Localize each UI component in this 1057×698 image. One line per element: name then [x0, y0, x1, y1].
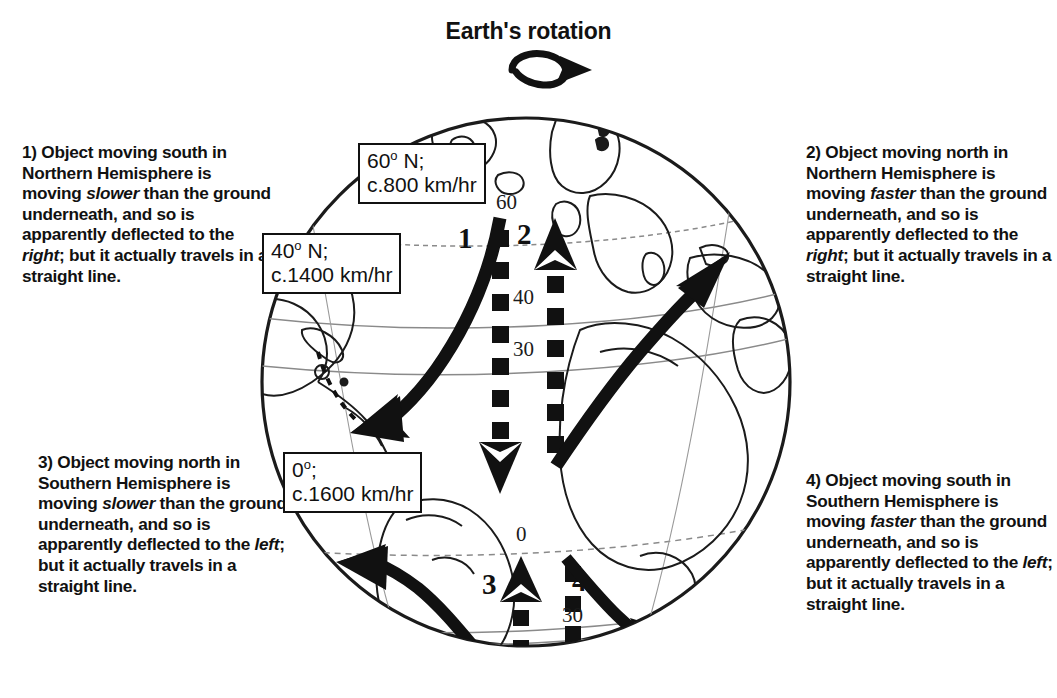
callout-0-latitude: 0: [292, 458, 304, 481]
latitude-label-30n: 30: [513, 337, 534, 362]
page-title: Earth's rotation: [0, 18, 1057, 45]
latitude-label-60n: 60: [496, 190, 517, 215]
note-northern-southbound: 1) Object moving south in Northern Hemis…: [22, 142, 272, 286]
note-4-speed-emphasis: faster: [870, 511, 915, 531]
callout-40-degree: o: [294, 238, 301, 253]
callout-latitude-0: 0o; c.1600 km/hr: [283, 452, 422, 513]
callout-40-latitude: 40: [271, 239, 294, 262]
callout-40-hemisphere: N;: [302, 239, 329, 262]
arrow-label-2: 2: [517, 218, 532, 251]
callout-40-latitude-line: 40o N;: [271, 239, 392, 263]
callout-0-latitude-line: 0o;: [292, 458, 413, 482]
callout-0-hemisphere: ;: [311, 458, 317, 481]
callout-60-degree: o: [390, 148, 397, 163]
note-4-direction-emphasis: left: [1022, 552, 1047, 572]
arrow-label-4: 4: [572, 565, 587, 598]
note-1-direction-emphasis: right: [22, 245, 59, 265]
note-1-tail: ; but it actually travels in a straight …: [22, 245, 267, 286]
callout-40-speed: c.1400 km/hr: [271, 263, 392, 287]
callout-60-hemisphere: N;: [398, 149, 425, 172]
note-southern-northbound: 3) Object moving north in Southern Hemis…: [38, 452, 288, 596]
callout-0-speed: c.1600 km/hr: [292, 482, 413, 506]
callout-60-latitude-line: 60o N;: [367, 149, 477, 173]
latitude-label-equator: 0: [516, 522, 527, 547]
callout-latitude-40: 40o N; c.1400 km/hr: [262, 233, 401, 294]
note-2-tail: ; but it actually travels in a straight …: [806, 245, 1051, 286]
arrow-label-3: 3: [482, 568, 497, 601]
coriolis-diagram-page: Earth's rotation 1) Object moving south …: [0, 0, 1057, 698]
arrow-label-1: 1: [458, 222, 473, 255]
callout-60-speed: c.800 km/hr: [367, 173, 477, 197]
callout-latitude-60: 60o N; c.800 km/hr: [358, 143, 486, 204]
note-northern-northbound: 2) Object moving north in Northern Hemis…: [806, 142, 1054, 286]
callout-0-degree: o: [304, 457, 311, 472]
note-2-speed-emphasis: faster: [870, 183, 915, 203]
note-1-speed-emphasis: slower: [86, 183, 139, 203]
note-3-speed-emphasis: slower: [102, 493, 155, 513]
latitude-label-30s: 30: [562, 603, 583, 628]
latitude-label-40n: 40: [513, 285, 534, 310]
note-3-direction-emphasis: left: [254, 534, 279, 554]
earth-rotation-arrow-icon: [512, 54, 592, 85]
note-2-direction-emphasis: right: [806, 245, 843, 265]
note-southern-southbound: 4) Object moving south in Southern Hemis…: [806, 470, 1054, 614]
callout-60-latitude: 60: [367, 149, 390, 172]
